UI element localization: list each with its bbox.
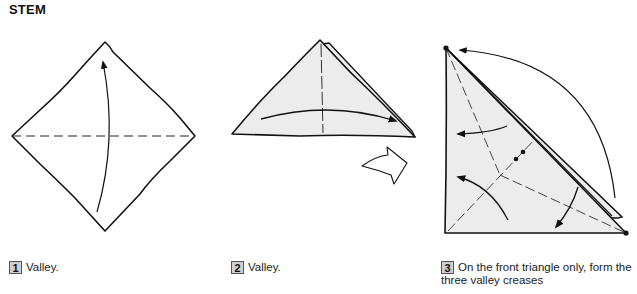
dot-icon <box>521 150 526 155</box>
corner-dot-icon <box>623 230 628 235</box>
step-3-caption: 3On the front triangle only, form the th… <box>441 261 637 287</box>
step-2-diagram <box>232 40 415 184</box>
step-caption-text: Valley. <box>26 261 59 273</box>
step-number-badge: 2 <box>231 261 244 274</box>
step-number-badge: 1 <box>9 261 22 274</box>
step-1-diagram <box>12 42 195 231</box>
step-caption-text: On the front triangle only, form the thr… <box>441 261 632 286</box>
origami-diagrams <box>0 0 637 294</box>
step-2-caption: 2Valley. <box>231 261 281 274</box>
corner-dot-icon <box>443 45 448 50</box>
step-number-badge: 3 <box>441 261 454 274</box>
dot-icon <box>514 157 519 162</box>
step-caption-text: Valley. <box>248 261 281 273</box>
paper-triangle <box>232 40 415 137</box>
step-1-caption: 1Valley. <box>9 261 59 274</box>
turn-over-icon <box>362 147 407 184</box>
step-3-diagram <box>443 45 628 235</box>
